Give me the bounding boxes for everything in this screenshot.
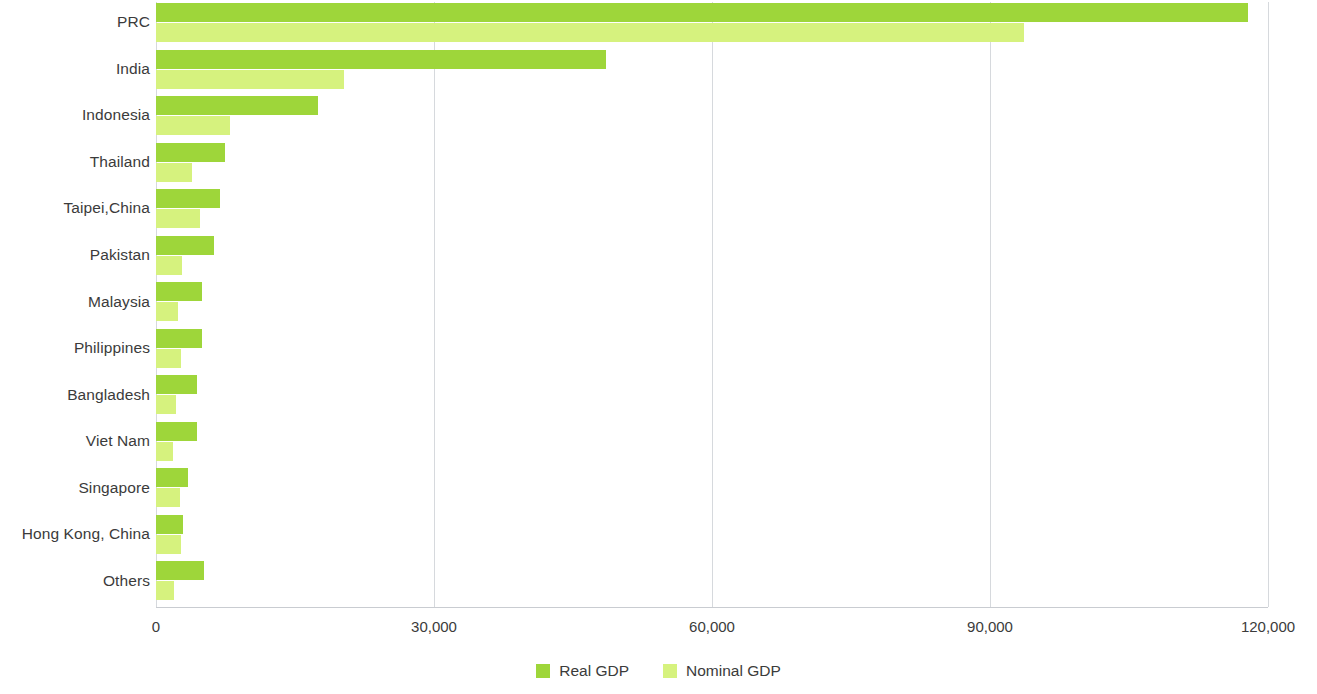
- bar-real-gdp[interactable]: [156, 143, 225, 162]
- category-label: Hong Kong, China: [0, 525, 150, 543]
- bar-nominal-gdp[interactable]: [156, 256, 182, 275]
- category-label: Singapore: [0, 479, 150, 497]
- category-label: Taipei,China: [0, 199, 150, 217]
- bar-group: [156, 560, 1268, 607]
- bar-nominal-gdp[interactable]: [156, 302, 178, 321]
- bar-nominal-gdp[interactable]: [156, 488, 180, 507]
- bar-real-gdp[interactable]: [156, 189, 220, 208]
- category-axis: PRCIndiaIndonesiaThailandTaipei,ChinaPak…: [0, 0, 150, 607]
- chart-legend: Real GDPNominal GDP: [0, 662, 1317, 680]
- bar-group: [156, 142, 1268, 189]
- legend-item[interactable]: Nominal GDP: [663, 662, 781, 680]
- bar-group: [156, 328, 1268, 375]
- bar-group: [156, 281, 1268, 328]
- x-tick-label: 60,000: [689, 618, 735, 635]
- category-label: Indonesia: [0, 106, 150, 124]
- bar-real-gdp[interactable]: [156, 96, 318, 115]
- x-tick-label: 0: [152, 618, 160, 635]
- category-label: Bangladesh: [0, 386, 150, 404]
- category-label: Others: [0, 572, 150, 590]
- bar-real-gdp[interactable]: [156, 50, 606, 69]
- bar-nominal-gdp[interactable]: [156, 23, 1024, 42]
- bar-group: [156, 421, 1268, 468]
- bar-group: [156, 2, 1268, 49]
- bar-real-gdp[interactable]: [156, 515, 183, 534]
- bar-nominal-gdp[interactable]: [156, 163, 192, 182]
- bar-real-gdp[interactable]: [156, 375, 197, 394]
- bar-nominal-gdp[interactable]: [156, 395, 176, 414]
- bar-group: [156, 374, 1268, 421]
- category-label: Thailand: [0, 153, 150, 171]
- x-tick-label: 120,000: [1241, 618, 1295, 635]
- category-label: Philippines: [0, 339, 150, 357]
- bar-nominal-gdp[interactable]: [156, 349, 181, 368]
- category-label: Malaysia: [0, 293, 150, 311]
- legend-label: Nominal GDP: [686, 662, 781, 680]
- legend-swatch-icon: [663, 664, 677, 678]
- bar-real-gdp[interactable]: [156, 329, 202, 348]
- bar-real-gdp[interactable]: [156, 282, 202, 301]
- bar-group: [156, 467, 1268, 514]
- bar-nominal-gdp[interactable]: [156, 209, 200, 228]
- bar-group: [156, 95, 1268, 142]
- bar-real-gdp[interactable]: [156, 561, 204, 580]
- bar-group: [156, 49, 1268, 96]
- bar-group: [156, 188, 1268, 235]
- bar-real-gdp[interactable]: [156, 236, 214, 255]
- bar-real-gdp[interactable]: [156, 3, 1248, 22]
- category-label: India: [0, 60, 150, 78]
- bar-nominal-gdp[interactable]: [156, 535, 181, 554]
- bar-real-gdp[interactable]: [156, 468, 188, 487]
- bar-group: [156, 235, 1268, 282]
- category-label: Viet Nam: [0, 432, 150, 450]
- category-label: PRC: [0, 13, 150, 31]
- x-tick-label: 30,000: [411, 618, 457, 635]
- gridline-120000: [1268, 2, 1269, 607]
- bar-group: [156, 514, 1268, 561]
- plot-area: [156, 2, 1268, 607]
- category-label: Pakistan: [0, 246, 150, 264]
- bar-real-gdp[interactable]: [156, 422, 197, 441]
- bar-nominal-gdp[interactable]: [156, 70, 344, 89]
- value-axis: 030,00060,00090,000120,000: [156, 612, 1268, 642]
- bar-nominal-gdp[interactable]: [156, 116, 230, 135]
- bar-nominal-gdp[interactable]: [156, 581, 174, 600]
- legend-swatch-icon: [536, 664, 550, 678]
- gdp-bar-chart: PRCIndiaIndonesiaThailandTaipei,ChinaPak…: [0, 0, 1317, 694]
- legend-label: Real GDP: [559, 662, 629, 680]
- bar-nominal-gdp[interactable]: [156, 442, 173, 461]
- x-axis-line: [156, 607, 1268, 608]
- x-tick-label: 90,000: [967, 618, 1013, 635]
- legend-item[interactable]: Real GDP: [536, 662, 629, 680]
